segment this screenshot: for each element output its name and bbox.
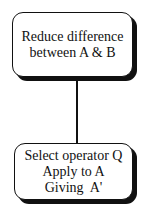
node-text-line: between A & B (30, 45, 116, 61)
node-text-line: Giving A' (45, 180, 103, 196)
node-text-line: Reduce difference (22, 29, 124, 45)
node-text-line: Apply to A (42, 164, 104, 180)
node-select-operator: Select operator Q Apply to A Giving A' (14, 143, 133, 200)
node-text-line: Select operator Q (25, 148, 123, 164)
node-reduce-difference: Reduce difference between A & B (12, 12, 133, 77)
connector-line (76, 80, 78, 143)
